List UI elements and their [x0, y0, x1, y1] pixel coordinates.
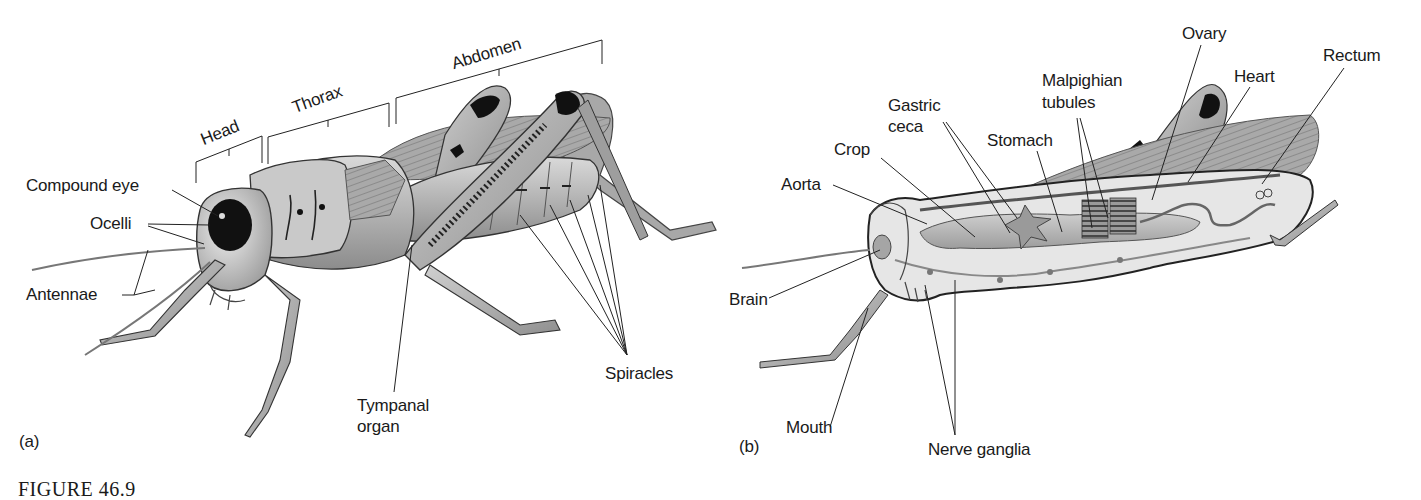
ocelli-label: Ocelli — [90, 214, 131, 233]
mouth-label: Mouth — [786, 418, 832, 437]
spiracles-label: Spiracles — [605, 364, 673, 383]
figure-caption: FIGURE 46.9 — [18, 478, 136, 500]
brain-shape — [873, 235, 891, 259]
grasshopper-external — [32, 86, 716, 437]
gastric-ceca-label-2: ceca — [888, 117, 923, 136]
malpighian-tubules-label-2: tubules — [1042, 93, 1095, 112]
panel-a-label: (a) — [19, 432, 39, 451]
tympanal-organ-label-1: Tympanal — [357, 396, 429, 415]
brain-label: Brain — [729, 290, 768, 309]
tympanal-organ-label-2: organ — [357, 417, 399, 436]
rectum-label: Rectum — [1323, 46, 1380, 65]
stomach-label: Stomach — [987, 131, 1053, 150]
aorta-label: Aorta — [781, 175, 821, 194]
heart-label: Heart — [1234, 67, 1275, 86]
compound-eye-shape — [208, 199, 252, 251]
crop-label: Crop — [834, 140, 870, 159]
malpighian-tubules-label-1: Malpighian — [1042, 71, 1122, 90]
grasshopper-internal — [742, 84, 1338, 368]
nerve-ganglia-label: Nerve ganglia — [928, 440, 1030, 459]
gastric-ceca-label-1: Gastric — [888, 96, 940, 115]
panel-b-label: (b) — [739, 437, 759, 456]
compound-eye-label: Compound eye — [26, 176, 139, 195]
thorax-bracket — [268, 103, 389, 164]
antennae-label: Antennae — [26, 285, 97, 304]
ovary-label: Ovary — [1182, 24, 1226, 43]
